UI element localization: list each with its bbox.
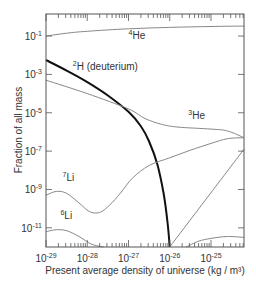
x-tick-label: 10-28 [77, 252, 98, 264]
plot-frame [46, 14, 244, 247]
curve-label: 2H (deuterium) [73, 60, 138, 72]
curve-3he [46, 80, 244, 138]
nucleosynthesis-chart: 10-2910-2810-2710-2610-25 10-110-310-510… [0, 0, 256, 286]
y-tick-label: 10-5 [25, 107, 42, 119]
y-tick-label: 10-11 [21, 222, 42, 234]
curve-label: 7Li [63, 171, 75, 183]
y-tick-label: 10-3 [25, 68, 42, 80]
y-tick-label: 10-7 [25, 145, 42, 157]
y-tick-label: 10-9 [25, 183, 42, 195]
curve-label: 3He [188, 109, 205, 121]
curve-label: 6Li [60, 209, 72, 221]
y-tick-label: 10-1 [25, 30, 42, 42]
x-tick-label: 10-27 [118, 252, 139, 264]
curve-extra-5 [170, 149, 244, 247]
curve-7li [46, 138, 244, 213]
y-axis-title: Fraction of all mass [13, 87, 24, 174]
x-axis-ticks: 10-2910-2810-2710-2610-25 [35, 14, 243, 264]
x-tick-label: 10-29 [35, 252, 56, 264]
curve-label: 4He [129, 29, 146, 41]
x-tick-label: 10-26 [159, 252, 180, 264]
x-axis-title: Present average density of universe (kg … [45, 265, 245, 276]
x-tick-label: 10-25 [200, 252, 221, 264]
curve-labels: 4He2H (deuterium)3He7Li6Li [60, 29, 205, 221]
